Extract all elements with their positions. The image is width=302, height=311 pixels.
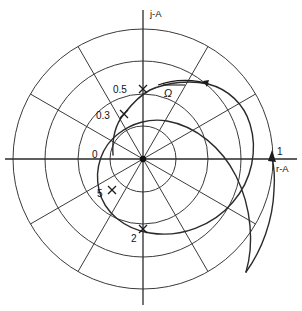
marker-label-2: 2 <box>131 233 137 244</box>
vertical-axis-label: j-A <box>149 8 162 19</box>
marker-cross-0.3 <box>120 110 128 118</box>
marker-label-0.5: 0.5 <box>113 84 127 95</box>
marker-label-0: 0 <box>92 149 98 160</box>
marker-label-5: 5 <box>97 188 103 199</box>
polar-plot-figure: Ω j-A r-A 1 0 0.3 0.5 5 2 <box>0 0 302 311</box>
marker-cross-5 <box>108 186 116 194</box>
horizontal-axis-label: r-A <box>276 163 289 174</box>
marker-label-0.3: 0.3 <box>96 110 110 121</box>
polar-plot-canvas: Ω j-A r-A 1 0 0.3 0.5 5 2 <box>0 0 302 311</box>
plot-labels: j-A r-A 1 0 0.3 0.5 5 2 <box>92 8 289 244</box>
unit-tick-label: 1 <box>277 146 283 157</box>
origin-dot <box>140 156 146 162</box>
locus-arrow-head <box>268 150 276 162</box>
omega-label: Ω <box>164 87 172 99</box>
